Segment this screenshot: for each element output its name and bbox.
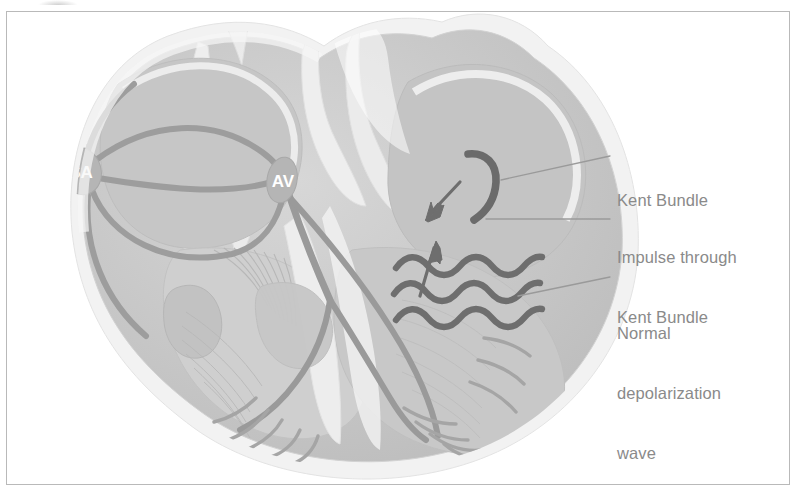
label-group: Kent Bundle Impulse through Kent Bundle … — [0, 0, 798, 491]
label-normal-line-2: depolarization — [617, 383, 721, 403]
figure-page: SA AV Kent Bundle Impulse through Kent B… — [0, 0, 798, 491]
label-normal-depolarization-wave: Normal depolarization wave — [617, 283, 721, 491]
label-normal-line-3: wave — [617, 443, 721, 463]
label-normal-line-1: Normal — [617, 323, 721, 343]
label-impulse-line-1: Impulse through — [617, 247, 737, 267]
